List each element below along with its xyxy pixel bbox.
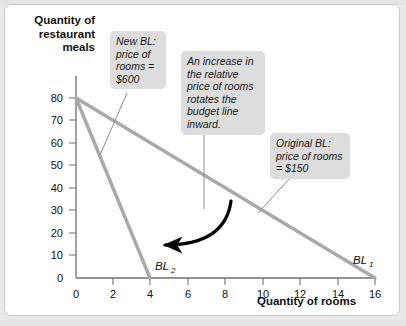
bl1-label-sub: 1: [369, 260, 373, 269]
leader-line-original-bl: [258, 178, 290, 213]
y-tick-40: 40: [51, 182, 63, 194]
chart-panel: Quantity of restaurant meals Quantity of…: [4, 4, 400, 316]
bl1-label-base: BL: [353, 254, 367, 266]
bl2-label-base: BL: [155, 260, 169, 272]
rotation-arrow: [165, 201, 231, 245]
x-axis-ticks: [113, 278, 375, 285]
y-axis-tick-labels: 0 10 20 30 40 50 60 70 80: [51, 92, 63, 284]
bottom-band: [0, 320, 406, 326]
callout-increase-explanation: An increase in the relative price of roo…: [181, 51, 265, 135]
x-tick-16: 16: [369, 288, 381, 300]
bl2-label-sub: 2: [170, 266, 176, 275]
x-tick-0: 0: [73, 288, 79, 300]
y-tick-70: 70: [51, 114, 63, 126]
y-tick-50: 50: [51, 159, 63, 171]
y-tick-20: 20: [51, 227, 63, 239]
y-tick-0: 0: [57, 272, 63, 284]
leader-line-new-bl: [100, 93, 127, 155]
x-tick-6: 6: [185, 288, 191, 300]
x-tick-10: 10: [257, 288, 269, 300]
callout-original-bl: Original BL: price of rooms = $150: [270, 133, 350, 179]
x-tick-4: 4: [147, 288, 153, 300]
x-tick-14: 14: [332, 288, 344, 300]
bl2-label: BL 2: [155, 260, 176, 275]
x-tick-12: 12: [294, 288, 306, 300]
y-tick-30: 30: [51, 204, 63, 216]
y-tick-80: 80: [51, 92, 63, 104]
y-axis-ticks: [69, 98, 76, 255]
y-tick-60: 60: [51, 137, 63, 149]
x-tick-8: 8: [222, 288, 228, 300]
x-axis-tick-labels: 0 2 4 6 8 10 12 14 16: [73, 288, 381, 300]
callout-new-bl: New BL: price of rooms = $600: [110, 31, 166, 89]
x-tick-2: 2: [110, 288, 116, 300]
y-tick-10: 10: [51, 249, 63, 261]
